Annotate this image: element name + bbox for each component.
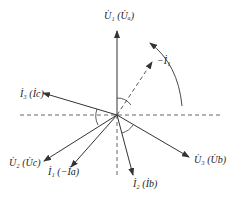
phasor-diagram <box>0 0 244 203</box>
angle-arc-I3 <box>96 109 98 125</box>
label-I2: İ₂ (İb) <box>133 179 157 189</box>
vector-neg-I1 <box>117 62 152 115</box>
angle-arc-U1-negI1 <box>117 98 131 105</box>
label-U1: U̇₁ (U̇ₐ) <box>104 11 134 21</box>
vector-I3 <box>43 93 117 115</box>
label-U3: U̇₃ (U̇b) <box>194 155 226 165</box>
vector-I1 <box>71 115 117 167</box>
label-neg-I1: −İ₁ <box>157 56 171 66</box>
label-I1: İ₁ (−İa) <box>48 167 79 177</box>
vector-I2 <box>117 115 133 175</box>
vector-U2 <box>44 115 117 161</box>
angle-arc-I2-U3 <box>122 125 133 133</box>
rotation-direction-arrow <box>150 43 182 106</box>
label-U2: U̇₂ (U̇c) <box>9 158 41 168</box>
vector-U3 <box>117 115 189 157</box>
label-I3: İ₃ (İc) <box>20 89 44 99</box>
